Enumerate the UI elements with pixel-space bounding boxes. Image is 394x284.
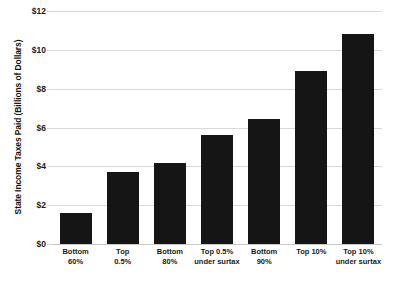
gridline xyxy=(52,244,382,245)
bar xyxy=(295,71,327,244)
bar-column xyxy=(201,11,233,244)
bar xyxy=(201,135,233,244)
x-tick-label-line2: 60% xyxy=(52,257,99,267)
bar xyxy=(60,213,92,244)
bar xyxy=(107,172,139,244)
bar-column xyxy=(248,11,280,244)
x-tick-label: Top0.5% xyxy=(99,247,146,267)
x-tick-label: Bottom60% xyxy=(52,247,99,267)
x-tick-label-line1: Top xyxy=(116,247,129,256)
y-tick-label: $12 xyxy=(4,6,46,16)
bar-column xyxy=(342,11,374,244)
y-tick-mark xyxy=(47,244,52,245)
x-tick-label: Bottom80% xyxy=(146,247,193,267)
y-tick-label: $10 xyxy=(4,45,46,55)
x-tick-label-line1: Top 0.5% xyxy=(201,247,233,256)
x-tick-label-line1: Top 10% xyxy=(343,247,373,256)
x-tick-label-line1: Bottom xyxy=(251,247,277,256)
bar-series xyxy=(52,11,382,244)
bar xyxy=(154,163,186,244)
x-tick-label-line2: 80% xyxy=(146,257,193,267)
x-tick-label: Top 10% xyxy=(288,247,335,257)
y-tick-label: $2 xyxy=(4,200,46,210)
bar-column xyxy=(295,11,327,244)
x-tick-label-line2: 90% xyxy=(241,257,288,267)
plot-area: $0$2$4$6$8$10$12 Bottom60%Top0.5%Bottom8… xyxy=(52,11,382,244)
x-tick-label-line1: Bottom xyxy=(157,247,183,256)
bar-column xyxy=(107,11,139,244)
y-tick-label: $8 xyxy=(4,84,46,94)
bar-column xyxy=(60,11,92,244)
bar xyxy=(248,119,280,244)
bar-chart: State Income Taxes Paid (Billions of Dol… xyxy=(0,0,394,284)
x-tick-label: Top 0.5%under surtax xyxy=(193,247,240,267)
bar xyxy=(342,34,374,244)
cropped-chart-title xyxy=(24,0,324,4)
x-tick-label-line1: Top 10% xyxy=(296,247,326,256)
y-tick-label: $4 xyxy=(4,161,46,171)
x-tick-label-line2: under surtax xyxy=(335,257,382,267)
x-tick-label-line2: under surtax xyxy=(193,257,240,267)
x-tick-label: Top 10%under surtax xyxy=(335,247,382,267)
y-tick-label: $0 xyxy=(4,239,46,249)
x-tick-label-line2: 0.5% xyxy=(99,257,146,267)
x-tick-label-line1: Bottom xyxy=(62,247,88,256)
x-tick-label: Bottom90% xyxy=(241,247,288,267)
y-tick-label: $6 xyxy=(4,123,46,133)
bar-column xyxy=(154,11,186,244)
